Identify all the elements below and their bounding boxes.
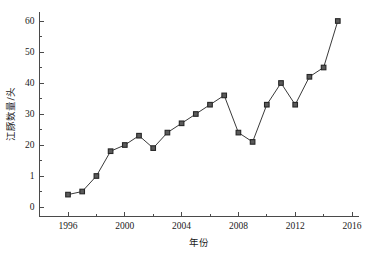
chart-container: 012030405060 199620002004200820122016 年份… (0, 0, 371, 271)
data-point-marker (179, 121, 184, 126)
data-point-marker (236, 130, 241, 135)
x-axis-tick-labels: 199620002004200820122016 (59, 221, 362, 231)
y-axis-ticks (40, 21, 44, 207)
data-series-line (68, 21, 338, 195)
x-axis-title: 年份 (189, 237, 209, 248)
y-tick-label: 30 (25, 109, 35, 119)
data-point-markers (66, 19, 340, 197)
y-tick-label: 60 (25, 16, 35, 26)
data-point-marker (293, 102, 298, 107)
x-tick-label: 2004 (172, 221, 191, 231)
data-point-marker (108, 149, 113, 154)
data-point-marker (165, 130, 170, 135)
data-point-marker (194, 112, 199, 117)
data-point-marker (279, 81, 284, 86)
y-axis-title: 江豚数量/头 (5, 87, 16, 140)
y-tick-label: 50 (25, 47, 35, 57)
data-point-marker (137, 133, 142, 138)
data-point-marker (66, 192, 71, 197)
y-tick-label: 0 (30, 202, 35, 212)
x-tick-label: 2008 (229, 221, 248, 231)
data-point-marker (123, 143, 128, 148)
x-tick-label: 2000 (115, 221, 134, 231)
x-axis-ticks (68, 212, 352, 216)
data-point-marker (151, 146, 156, 151)
x-tick-label: 2016 (343, 221, 362, 231)
data-point-marker (222, 93, 227, 98)
data-point-marker (94, 174, 99, 179)
x-tick-label: 2012 (286, 221, 305, 231)
y-axis-tick-labels: 012030405060 (25, 16, 35, 212)
data-point-marker (250, 140, 255, 145)
data-point-marker (208, 102, 213, 107)
data-point-marker (307, 75, 312, 80)
x-tick-label: 1996 (59, 221, 78, 231)
line-chart-plot: 012030405060 199620002004200820122016 年份… (0, 0, 371, 271)
y-tick-label: 40 (25, 78, 35, 88)
data-point-marker (336, 19, 341, 24)
y-tick-label: 1 (30, 171, 35, 181)
y-tick-label: 20 (25, 140, 35, 150)
data-point-marker (265, 102, 270, 107)
data-point-marker (80, 189, 85, 194)
data-point-marker (321, 65, 326, 70)
